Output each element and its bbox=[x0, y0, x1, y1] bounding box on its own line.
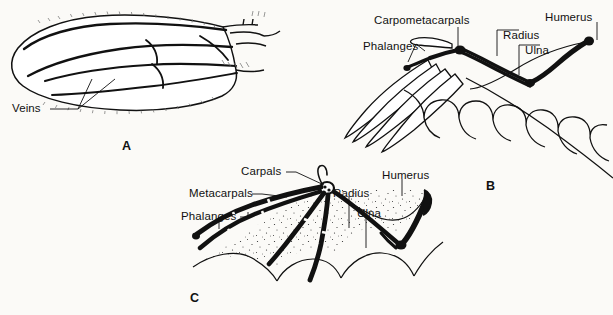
bat-digit4-joint-gap bbox=[304, 219, 309, 221]
bird-primary-feathers bbox=[345, 60, 463, 152]
panel-letter-a: A bbox=[122, 140, 131, 153]
bird-phalanx-tip bbox=[403, 65, 410, 71]
label-carpals-bat: Carpals bbox=[241, 166, 281, 178]
bird-carpometacarpals-bone bbox=[430, 50, 458, 58]
label-ulna-bird: Ulna bbox=[525, 45, 549, 57]
label-ulna-bat: Ulna bbox=[357, 208, 381, 220]
bat-digit2-tip bbox=[192, 233, 200, 240]
bat-wing-drawing bbox=[192, 165, 443, 281]
label-humerus-bat: Humerus bbox=[382, 170, 429, 182]
figure-artwork bbox=[0, 0, 613, 315]
wing-comparison-figure: Veins Carpometacarpals Phalanges Radius … bbox=[0, 0, 613, 315]
panel-letter-c: C bbox=[190, 292, 199, 305]
label-phalanges-bat: Phalanges bbox=[181, 211, 236, 223]
panel-letter-b: B bbox=[486, 180, 495, 193]
bat-digit5-joint-gap bbox=[322, 232, 327, 233]
label-metacarpals-bat: Metacarpals bbox=[189, 188, 253, 200]
bat-carpal-bone-a bbox=[323, 185, 326, 188]
insect-wing-outline bbox=[12, 15, 237, 110]
insect-wing-drawing bbox=[12, 11, 280, 114]
bat-carpal-bone-b bbox=[327, 188, 330, 191]
label-radius-bat: Radius bbox=[333, 188, 369, 200]
label-humerus-bird: Humerus bbox=[545, 12, 592, 24]
bird-shoulder-joint bbox=[584, 37, 594, 46]
label-phalanges-bird: Phalanges bbox=[363, 41, 418, 53]
label-veins: Veins bbox=[12, 103, 41, 115]
label-carpometacarpals: Carpometacarpals bbox=[374, 15, 470, 27]
label-radius-bird: Radius bbox=[503, 30, 539, 42]
